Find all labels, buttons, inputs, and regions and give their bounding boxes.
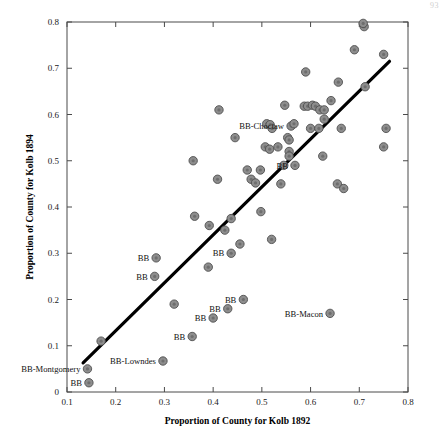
data-point — [188, 332, 196, 340]
data-point — [152, 254, 160, 262]
data-point-core — [353, 48, 356, 51]
regression-line-layer — [83, 61, 389, 363]
data-point-core — [293, 164, 296, 167]
data-point-core — [259, 210, 262, 213]
data-point-core — [364, 85, 367, 88]
data-point — [227, 249, 235, 257]
data-point — [189, 157, 197, 165]
data-point-core — [254, 181, 257, 184]
data-point-core — [193, 215, 196, 218]
x-tick-label: 0.4 — [208, 397, 220, 407]
point-annotation: BB — [225, 295, 237, 305]
data-point-core — [207, 266, 210, 269]
data-point — [213, 175, 221, 183]
data-point-core — [342, 187, 345, 190]
x-tick-label: 0.8 — [402, 397, 414, 407]
data-point-core — [384, 127, 387, 130]
data-point-core — [382, 53, 385, 56]
data-point — [251, 179, 259, 187]
data-point — [256, 166, 264, 174]
data-point — [204, 263, 212, 271]
axes-layer: 0.10.20.30.40.50.60.70.800.10.20.30.40.5… — [48, 17, 414, 407]
data-point-core — [309, 127, 312, 130]
y-tick-label: 0.5 — [48, 156, 60, 166]
x-tick-label: 0.7 — [354, 397, 366, 407]
data-point-core — [217, 108, 220, 111]
data-point — [319, 152, 327, 160]
data-point — [320, 106, 328, 114]
y-tick-label: 0.3 — [48, 248, 60, 258]
point-annotation: BB-Lowndes — [110, 356, 156, 366]
data-point — [267, 235, 275, 243]
data-point — [350, 46, 358, 54]
data-point-core — [87, 381, 90, 384]
data-point — [359, 19, 367, 27]
data-point-core — [216, 178, 219, 181]
data-point — [285, 152, 293, 160]
data-point-core — [230, 217, 233, 220]
data-point — [209, 314, 217, 322]
y-tick-label: 0.1 — [48, 341, 59, 351]
data-point-core — [242, 298, 245, 301]
data-point — [231, 133, 239, 141]
data-point-core — [191, 335, 194, 338]
x-tick-label: 0.1 — [61, 397, 72, 407]
data-point — [382, 124, 390, 132]
plot-frame — [67, 22, 408, 392]
data-point — [285, 136, 293, 144]
data-point-core — [288, 138, 291, 141]
point-annotation: BB — [195, 313, 207, 323]
data-point — [361, 83, 369, 91]
data-point — [159, 357, 167, 365]
point-annotation: BB-Choctaw — [239, 121, 285, 131]
point-annotation: BB — [277, 161, 289, 171]
data-point-core — [288, 155, 291, 158]
data-point-core — [173, 303, 176, 306]
data-point-core — [283, 104, 286, 107]
data-point — [190, 212, 198, 220]
data-point — [243, 166, 251, 174]
data-point-core — [323, 118, 326, 121]
data-point — [379, 50, 387, 58]
data-point-core — [86, 367, 89, 370]
data-point — [315, 124, 323, 132]
data-point-core — [192, 159, 195, 162]
point-annotation: BB — [174, 332, 186, 342]
y-tick-label: 0.8 — [48, 17, 60, 27]
data-point-core — [268, 148, 271, 151]
data-point-core — [230, 252, 233, 255]
x-tick-label: 0.2 — [110, 397, 121, 407]
data-point — [236, 240, 244, 248]
data-point-core — [340, 127, 343, 130]
data-point — [327, 96, 335, 104]
page-number-artifact: 93 — [430, 1, 439, 10]
data-point-core — [304, 70, 307, 73]
data-point — [239, 295, 247, 303]
data-point-core — [336, 182, 339, 185]
data-point-core — [321, 155, 324, 158]
y-tick-label: 0 — [55, 387, 60, 397]
data-point-core — [329, 99, 332, 102]
x-tick-label: 0.5 — [256, 397, 268, 407]
data-point — [227, 214, 235, 222]
data-point — [290, 120, 298, 128]
data-point — [215, 106, 223, 114]
data-point — [337, 124, 345, 132]
data-point — [170, 300, 178, 308]
data-point — [274, 143, 282, 151]
data-point-core — [317, 127, 320, 130]
data-point-core — [238, 242, 241, 245]
x-tick-label: 0.6 — [305, 397, 317, 407]
y-tick-label: 0.2 — [48, 295, 59, 305]
data-point-core — [226, 307, 229, 310]
data-point-core — [208, 224, 211, 227]
data-point — [224, 305, 232, 313]
data-point — [83, 365, 91, 373]
data-point-core — [161, 359, 164, 362]
data-point — [291, 161, 299, 169]
data-point-core — [362, 22, 365, 25]
data-point — [257, 207, 265, 215]
point-annotation: BB — [138, 253, 150, 263]
data-point-core — [100, 340, 103, 343]
point-annotation: BB — [213, 248, 225, 258]
